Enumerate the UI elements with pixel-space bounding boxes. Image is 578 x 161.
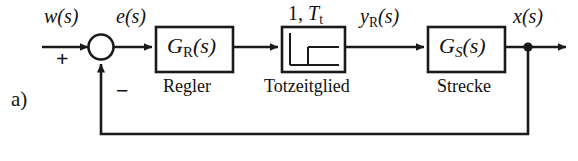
summing-junction-circle xyxy=(89,35,114,60)
deadtime-time-sub: t xyxy=(319,12,323,27)
plant-symbol-tail: (s) xyxy=(462,33,485,58)
yr-tail: (s) xyxy=(378,5,399,27)
controller-symbol-main: G xyxy=(167,33,183,58)
deadtime-time-symbol: T xyxy=(308,2,319,24)
block-label-plant: GS(s) xyxy=(439,35,486,60)
plant-symbol-main: G xyxy=(439,33,455,58)
signal-line-plant-output xyxy=(505,42,566,51)
block-diagram-figure: w(s) + − e(s) a) GR(s) Regler 1, Tt Totz… xyxy=(0,0,578,161)
controller-symbol-tail: (s) xyxy=(193,33,216,58)
label-controller-output-signal: yR(s) xyxy=(360,6,399,29)
deadtime-gain: 1, xyxy=(288,2,303,24)
controller-symbol-sub: R xyxy=(183,44,193,60)
caption-deadtime: Totzeitglied xyxy=(264,77,350,95)
yr-sub: R xyxy=(369,15,378,30)
caption-controller: Regler xyxy=(163,77,211,95)
label-minus-sign: − xyxy=(116,80,129,102)
block-label-controller: GR(s) xyxy=(167,35,216,60)
label-deadtime-params: 1, Tt xyxy=(288,3,323,26)
label-plus-sign: + xyxy=(56,48,69,70)
label-plant-output-signal: x(s) xyxy=(513,6,543,26)
label-error-signal: e(s) xyxy=(116,6,146,26)
yr-main: y xyxy=(360,5,369,27)
caption-plant: Strecke xyxy=(437,77,491,95)
label-reference-signal: w(s) xyxy=(44,6,78,26)
label-part: a) xyxy=(11,89,27,110)
